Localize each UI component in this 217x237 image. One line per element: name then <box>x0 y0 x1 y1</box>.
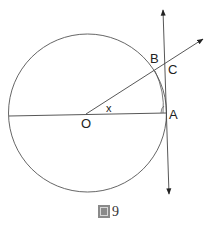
tangent-line <box>163 10 169 194</box>
label-C: C <box>168 62 177 77</box>
figure-number: 9 <box>112 204 119 219</box>
figure-glyph-icon <box>98 205 110 218</box>
label-A: A <box>169 107 178 122</box>
figure-caption: 9 <box>0 204 217 220</box>
arc-BA <box>155 71 163 113</box>
label-B: B <box>150 51 159 66</box>
ray-OC <box>86 39 203 114</box>
label-O: O <box>81 116 91 131</box>
angle-label-x: x <box>106 102 112 114</box>
geometry-diagram: O A B C x <box>0 0 217 237</box>
